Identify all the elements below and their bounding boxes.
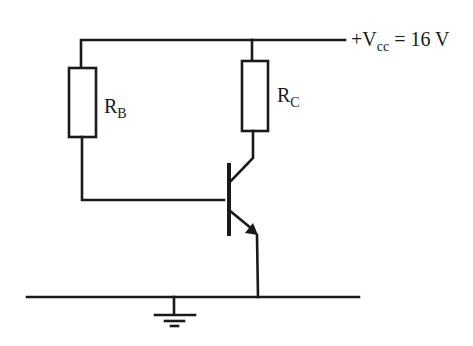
label-rb: RB (104, 96, 127, 121)
resistor-rb (69, 68, 96, 137)
collector-wire (229, 131, 253, 183)
label-rc: RC (277, 85, 300, 110)
label-supply-voltage: +Vcc = 16 V (351, 29, 450, 54)
ground-icon (155, 297, 195, 326)
supply-rail (81, 40, 345, 68)
emitter-to-ground-wire (257, 235, 258, 297)
resistor-rc (242, 61, 268, 131)
emitter-wire (229, 210, 252, 229)
base-wire (82, 137, 224, 200)
